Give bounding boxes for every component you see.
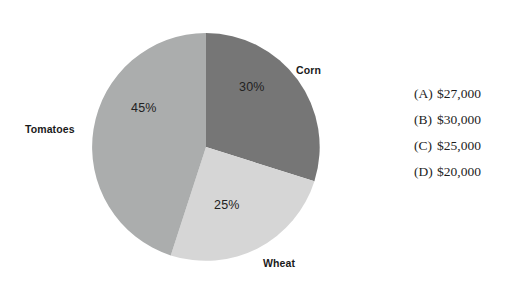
answer-option-b-text: $30,000 xyxy=(437,112,481,128)
answer-option-c-text: $25,000 xyxy=(437,138,481,154)
answer-option-a-key: (A) xyxy=(414,86,437,102)
answer-option-a-text: $27,000 xyxy=(437,86,481,102)
answer-option-c[interactable]: (C) $25,000 xyxy=(414,138,518,164)
pie-chart: 30% 25% 45% Corn Wheat Tomatoes xyxy=(0,0,400,289)
pie-label-tomatoes: Tomatoes xyxy=(25,123,75,135)
pie-value-corn: 30% xyxy=(239,80,265,94)
pie-value-wheat: 25% xyxy=(214,198,240,212)
answer-option-d[interactable]: (D) $20,000 xyxy=(414,164,518,190)
answer-option-b[interactable]: (B) $30,000 xyxy=(414,112,518,138)
pie-label-corn: Corn xyxy=(296,64,321,76)
answer-option-b-key: (B) xyxy=(414,112,437,128)
answer-option-d-text: $20,000 xyxy=(437,164,481,180)
page-root: 30% 25% 45% Corn Wheat Tomatoes (A) $27,… xyxy=(0,0,518,289)
pie-chart-svg xyxy=(88,29,324,265)
answer-option-d-key: (D) xyxy=(414,164,437,180)
pie-label-wheat: Wheat xyxy=(263,257,295,269)
answer-option-a[interactable]: (A) $27,000 xyxy=(414,86,518,112)
answer-options: (A) $27,000 (B) $30,000 (C) $25,000 (D) … xyxy=(414,86,518,190)
pie-value-tomatoes: 45% xyxy=(131,101,157,115)
answer-option-c-key: (C) xyxy=(414,138,437,154)
